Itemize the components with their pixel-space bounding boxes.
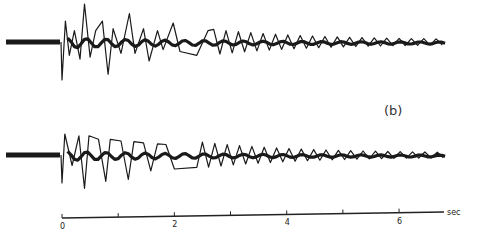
waveform-figure: 0246 sec (b) <box>0 0 486 238</box>
time-axis-unit-label: sec <box>447 208 461 217</box>
x-tick-label: 6 <box>397 217 402 226</box>
panel-label: (b) <box>384 103 402 118</box>
x-tick-label: 2 <box>172 220 177 229</box>
x-tick-label: 4 <box>285 218 290 227</box>
waveform-line <box>61 134 443 188</box>
x-tick-label: 0 <box>60 222 65 231</box>
time-axis-ticks: 0246 <box>60 209 402 231</box>
time-axis: 0246 sec <box>60 208 461 231</box>
traces-group <box>6 4 445 188</box>
time-axis-line <box>62 212 444 218</box>
